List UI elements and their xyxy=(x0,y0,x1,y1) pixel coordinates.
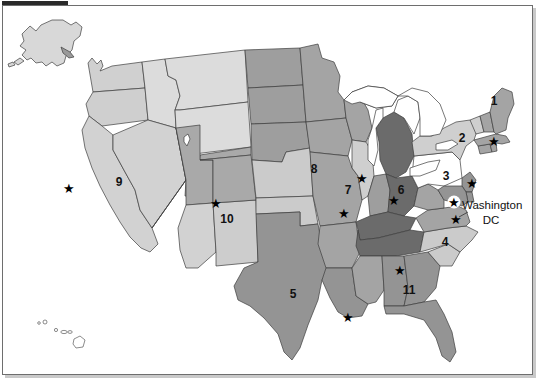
map-label-11: 11 xyxy=(403,283,416,297)
city-marker-st-louis: ★ xyxy=(338,207,350,220)
washington-dc-annotation: Washington DC xyxy=(462,198,536,228)
state-alaska xyxy=(20,20,82,66)
city-marker-new-orleans: ★ xyxy=(342,311,354,324)
map-label-9: 9 xyxy=(116,175,123,189)
map-label-7: 7 xyxy=(345,183,352,197)
state-mississippi xyxy=(352,256,384,304)
map-label-10: 10 xyxy=(220,212,233,226)
map-label-2: 2 xyxy=(459,131,466,145)
state-arizona xyxy=(178,203,216,268)
map-label-3: 3 xyxy=(443,169,450,183)
city-marker-baltimore: ★ xyxy=(448,196,461,209)
city-marker-birmingham: ★ xyxy=(394,264,406,277)
city-marker-new-york-city: ★ xyxy=(466,177,478,190)
state-minnesota xyxy=(300,44,346,122)
city-marker-san-francisco: ★ xyxy=(63,182,75,195)
city-marker-chicago: ★ xyxy=(356,172,368,185)
figure-page: 1 2 3 4 5 6 7 8 9 10 11 ★ ★ ★ ★ ★ ★ ★ ★ … xyxy=(0,0,540,381)
state-northdakota xyxy=(245,48,303,88)
map-label-5: 5 xyxy=(290,287,297,301)
state-oregon xyxy=(86,88,148,126)
state-florida xyxy=(384,300,456,362)
dc-label-line1: Washington xyxy=(462,199,522,211)
state-hawaii xyxy=(38,320,85,348)
state-washington xyxy=(88,58,145,92)
top-dark-bar xyxy=(2,1,68,5)
city-marker-washington-dc: ★ xyxy=(450,213,462,226)
us-map xyxy=(0,0,540,381)
dc-label-line2: DC xyxy=(462,213,536,228)
city-marker-boston: ★ xyxy=(488,135,500,148)
map-label-8: 8 xyxy=(311,162,318,176)
state-arkansas xyxy=(318,222,360,268)
state-iowa xyxy=(306,118,352,156)
alaska-aleutians xyxy=(8,58,24,67)
map-label-1: 1 xyxy=(491,94,498,108)
city-marker-denver: ★ xyxy=(210,197,222,210)
city-marker-cincinnati: ★ xyxy=(388,194,400,207)
map-label-4: 4 xyxy=(442,235,449,249)
us-map-svg xyxy=(0,0,540,381)
state-southdakota xyxy=(248,85,306,124)
